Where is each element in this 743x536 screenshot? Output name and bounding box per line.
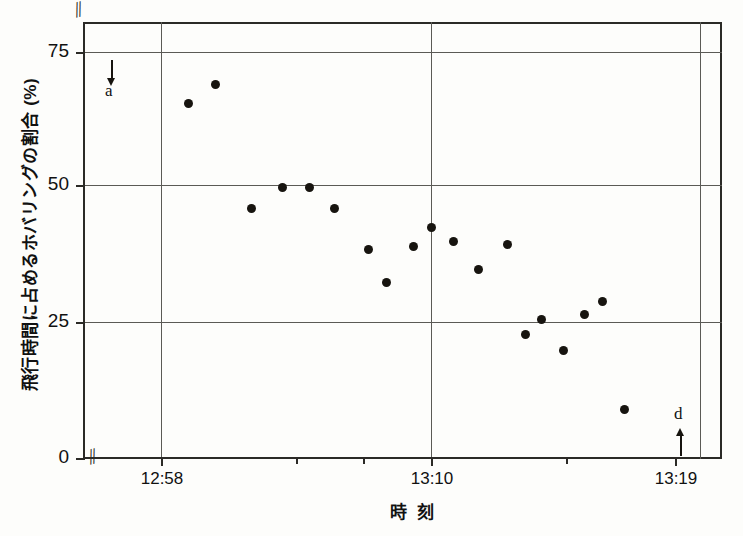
gridline-horizontal-50 xyxy=(83,185,722,186)
data-point xyxy=(382,278,391,287)
y-tick-75: 75 xyxy=(76,52,85,54)
y-axis-break-mark: // xyxy=(71,0,84,21)
plot-area: 75 50 25 0 // // 12:58 13:10 13:19 xyxy=(83,22,722,459)
y-tick-50: 50 xyxy=(76,185,85,187)
data-point xyxy=(598,297,607,306)
gridline-vertical-1310 xyxy=(431,22,432,459)
x-tick-1310: 13:10 xyxy=(431,457,433,466)
y-tick-0: 0 xyxy=(76,458,85,460)
x-tick-1319: 13:19 xyxy=(675,457,677,466)
y-tick-25: 25 xyxy=(76,322,85,324)
plot-frame-right xyxy=(720,22,722,459)
data-point xyxy=(330,204,339,213)
gridline-vertical-1258 xyxy=(161,22,162,459)
y-tick-label-0: 0 xyxy=(58,447,69,467)
data-point xyxy=(620,405,629,414)
data-point xyxy=(364,245,373,254)
x-tick-1258: 12:58 xyxy=(161,457,163,466)
x-tick-label-1310: 13:10 xyxy=(411,470,454,488)
annotation-a-label: a xyxy=(105,82,113,100)
data-point xyxy=(521,330,530,339)
x-tick-label-1319: 13:19 xyxy=(655,470,698,488)
data-point xyxy=(559,346,568,355)
data-point xyxy=(580,310,589,319)
data-point xyxy=(427,223,436,232)
data-point xyxy=(211,80,220,89)
x-tick-minor-2 xyxy=(363,457,365,464)
annotation-d-label: d xyxy=(674,405,683,423)
y-tick-label-75: 75 xyxy=(48,41,69,61)
data-point xyxy=(449,237,458,246)
gridline-horizontal-75 xyxy=(83,52,722,53)
plot-frame-left xyxy=(83,22,85,459)
data-point xyxy=(305,183,314,192)
gridline-horizontal-25 xyxy=(83,322,722,323)
data-point xyxy=(278,183,287,192)
data-point xyxy=(537,315,546,324)
x-tick-label-1258: 12:58 xyxy=(141,470,184,488)
data-point xyxy=(503,240,512,249)
data-point xyxy=(474,265,483,274)
x-axis-title: 時 刻 xyxy=(0,498,743,523)
data-point xyxy=(409,242,418,251)
data-point xyxy=(247,204,256,213)
x-tick-minor-1 xyxy=(296,457,298,464)
plot-frame-top xyxy=(83,22,722,24)
plot-frame-bottom xyxy=(83,457,722,459)
figure-scatter-hovering-proportion: 飛行時間に占めるホバリングの割合 (%) 75 50 25 0 // // xyxy=(0,0,743,536)
x-tick-minor-3 xyxy=(566,457,568,464)
y-axis-title: 飛行時間に占めるホバリングの割合 (%) xyxy=(16,25,41,445)
data-point xyxy=(184,99,193,108)
y-tick-label-50: 50 xyxy=(48,174,69,194)
y-tick-label-25: 25 xyxy=(48,311,69,331)
gridline-vertical-right xyxy=(700,22,701,459)
